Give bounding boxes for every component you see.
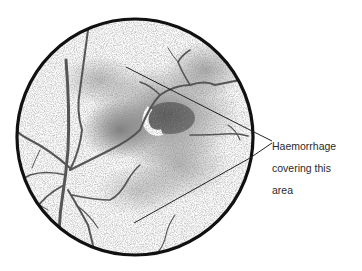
label-line-2: covering this <box>272 163 336 174</box>
label-line-3: area <box>272 185 336 196</box>
haemorrhage-label: Haemorrhage covering this area <box>272 130 336 207</box>
fundus-diagram: Haemorrhage covering this area <box>0 0 362 271</box>
label-line-1: Haemorrhage <box>272 141 336 152</box>
